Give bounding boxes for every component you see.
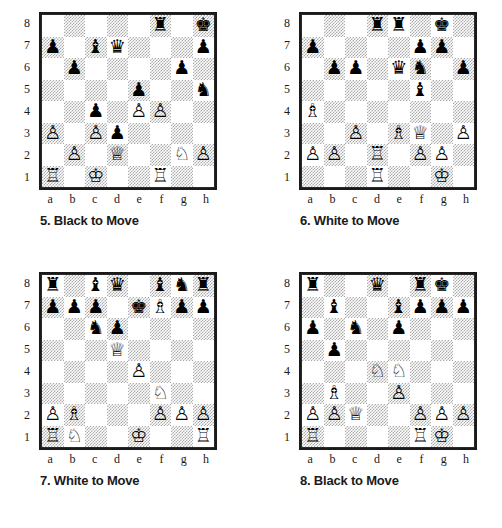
piece-wq-c2[interactable]: ♕ [347, 404, 364, 423]
piece-wp-h2[interactable]: ♙ [455, 404, 472, 423]
piece-wn-b1[interactable]: ♘ [66, 426, 83, 445]
square-d5[interactable]: ♕ [107, 340, 129, 362]
square-b6[interactable] [324, 318, 346, 340]
square-e1[interactable]: ♔ [128, 426, 150, 448]
square-e1[interactable] [388, 166, 410, 188]
square-f2[interactable]: ♙ [410, 144, 432, 166]
square-g8[interactable]: ♚ [431, 275, 453, 297]
square-b3[interactable] [64, 123, 86, 145]
square-a7[interactable]: ♟ [42, 37, 64, 59]
square-h3[interactable] [193, 383, 215, 405]
piece-wr-f1[interactable]: ♖ [152, 166, 169, 185]
square-a8[interactable] [42, 15, 64, 37]
square-c4[interactable]: ♟ [85, 101, 107, 123]
square-d8[interactable]: ♜ [367, 15, 389, 37]
piece-wp-e4[interactable]: ♙ [130, 101, 147, 120]
square-f2[interactable] [150, 144, 172, 166]
piece-bp-a6[interactable]: ♟ [304, 318, 321, 337]
square-d8[interactable] [107, 15, 129, 37]
square-f8[interactable] [410, 15, 432, 37]
piece-wp-b2[interactable]: ♙ [66, 144, 83, 163]
square-c1[interactable] [85, 426, 107, 448]
piece-br-e8[interactable]: ♜ [390, 15, 407, 34]
piece-bn-c6[interactable]: ♞ [87, 318, 104, 337]
square-f1[interactable] [410, 166, 432, 188]
square-f8[interactable]: ♜ [150, 15, 172, 37]
square-a7[interactable] [302, 297, 324, 319]
square-h4[interactable] [453, 101, 475, 123]
square-g8[interactable]: ♚ [431, 15, 453, 37]
square-b7[interactable] [324, 37, 346, 59]
piece-wn-f3[interactable]: ♘ [152, 383, 169, 402]
square-f3[interactable] [150, 123, 172, 145]
piece-wp-g2[interactable]: ♙ [433, 404, 450, 423]
square-d5[interactable] [107, 80, 129, 102]
square-a3[interactable] [42, 383, 64, 405]
square-f7[interactable]: ♗ [150, 297, 172, 319]
piece-br-f8[interactable]: ♜ [412, 275, 429, 294]
square-b2[interactable]: ♙ [324, 404, 346, 426]
piece-br-f8[interactable]: ♜ [152, 15, 169, 34]
square-g5[interactable] [431, 80, 453, 102]
square-a3[interactable] [302, 123, 324, 145]
square-a4[interactable] [42, 101, 64, 123]
square-a2[interactable] [42, 144, 64, 166]
piece-bp-f7[interactable]: ♟ [412, 297, 429, 316]
piece-wp-b2[interactable]: ♙ [326, 404, 343, 423]
square-d3[interactable] [367, 383, 389, 405]
piece-bp-c7[interactable]: ♟ [87, 297, 104, 316]
square-b4[interactable] [64, 361, 86, 383]
piece-wp-h3[interactable]: ♙ [455, 123, 472, 142]
piece-bp-h7[interactable]: ♟ [455, 297, 472, 316]
square-d7[interactable]: ♛ [107, 37, 129, 59]
piece-wb-e3[interactable]: ♗ [390, 123, 407, 142]
square-h3[interactable]: ♙ [453, 123, 475, 145]
square-h8[interactable]: ♜ [193, 275, 215, 297]
piece-bb-f8[interactable]: ♝ [152, 275, 169, 294]
square-e2[interactable] [128, 404, 150, 426]
square-e3[interactable]: ♙ [388, 383, 410, 405]
square-h8[interactable]: ♚ [193, 15, 215, 37]
square-c8[interactable] [85, 15, 107, 37]
square-c5[interactable] [85, 80, 107, 102]
piece-wn-e4[interactable]: ♘ [390, 361, 407, 380]
piece-wb-b3[interactable]: ♗ [326, 383, 343, 402]
square-b6[interactable]: ♟ [324, 58, 346, 80]
square-a4[interactable] [42, 361, 64, 383]
square-a8[interactable]: ♜ [42, 275, 64, 297]
square-b3[interactable] [64, 383, 86, 405]
square-e5[interactable]: ♟ [128, 80, 150, 102]
square-b1[interactable] [324, 426, 346, 448]
square-h6[interactable]: ♟ [453, 58, 475, 80]
square-h2[interactable] [453, 144, 475, 166]
piece-bp-g7[interactable]: ♟ [433, 37, 450, 56]
square-c7[interactable] [345, 297, 367, 319]
piece-wr-h1[interactable]: ♖ [195, 426, 212, 445]
square-h1[interactable] [453, 166, 475, 188]
chessboard[interactable]: ♜♝♛♝♞♜♟♟♟♚♗♟♟♞♟♕♙♘♙♗♙♙♙♖♘♔♖ [39, 272, 217, 450]
piece-wk-c1[interactable]: ♔ [87, 166, 104, 185]
piece-wr-f1[interactable]: ♖ [412, 426, 429, 445]
square-f7[interactable] [150, 37, 172, 59]
square-e6[interactable]: ♛ [388, 58, 410, 80]
square-f5[interactable]: ♝ [410, 80, 432, 102]
square-f3[interactable]: ♕ [410, 123, 432, 145]
square-g1[interactable] [171, 166, 193, 188]
piece-wp-e4[interactable]: ♙ [130, 361, 147, 380]
piece-bq-d8[interactable]: ♛ [369, 275, 386, 294]
square-a4[interactable] [302, 361, 324, 383]
square-c5[interactable] [85, 340, 107, 362]
chessboard[interactable]: ♜♛♜♚♝♝♟♟♟♟♞♟♟♘♘♗♙♙♙♕♙♙♙♖♖♔ [299, 272, 477, 450]
square-d4[interactable]: ♘ [367, 361, 389, 383]
square-a7[interactable]: ♟ [302, 37, 324, 59]
square-g7[interactable] [171, 37, 193, 59]
square-d3[interactable] [107, 383, 129, 405]
square-h6[interactable] [193, 58, 215, 80]
piece-bb-f5[interactable]: ♝ [412, 80, 429, 99]
square-e3[interactable] [128, 383, 150, 405]
square-a1[interactable] [302, 166, 324, 188]
square-f4[interactable] [410, 361, 432, 383]
piece-wp-g2[interactable]: ♙ [433, 144, 450, 163]
square-c6[interactable]: ♞ [85, 318, 107, 340]
piece-bp-b6[interactable]: ♟ [326, 58, 343, 77]
